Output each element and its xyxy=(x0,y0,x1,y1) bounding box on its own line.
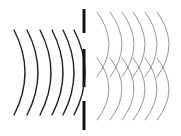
incident-wavefronts xyxy=(14,30,85,115)
diffracted-wavefront-lower-slit xyxy=(110,58,122,120)
diffracted-wavefront-lower-slit xyxy=(122,58,134,120)
diagram-canvas xyxy=(0,0,181,136)
diffracted-wavefronts xyxy=(97,12,169,120)
slit-barrier xyxy=(83,9,86,130)
barrier-segment xyxy=(83,9,86,33)
incident-wavefront xyxy=(27,30,38,115)
diffracted-wavefront-lower-slit xyxy=(157,58,169,120)
barrier-segment xyxy=(83,49,86,87)
double-slit-diagram xyxy=(0,0,181,136)
diffracted-wavefront-lower-slit xyxy=(145,58,157,120)
incident-wavefront xyxy=(14,30,25,115)
incident-wavefront xyxy=(63,30,74,115)
diffracted-wavefront-lower-slit xyxy=(133,58,145,120)
barrier-segment xyxy=(83,101,86,130)
incident-wavefront xyxy=(40,30,51,115)
incident-wavefront xyxy=(52,30,63,115)
diffracted-wavefront-lower-slit xyxy=(97,58,109,120)
